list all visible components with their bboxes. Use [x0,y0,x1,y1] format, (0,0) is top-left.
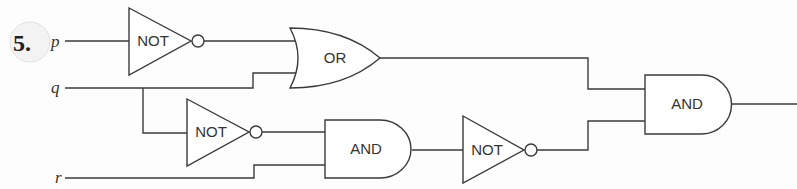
not-gate-3: NOT [463,116,537,183]
or-gate: OR [290,28,380,88]
problem-number-text: 5. [13,30,31,56]
logic-circuit-diagram: 5. p q r NOT OR [0,0,797,189]
inversion-bubble [250,126,262,138]
gate-label: OR [324,49,347,66]
not-gate-1: NOT [129,8,204,75]
and-gate-1: AND [325,120,411,178]
gate-label: AND [671,95,703,112]
wire-or-and2 [380,58,645,89]
gate-label: NOT [471,141,503,158]
gate-label: NOT [137,32,169,49]
wire-q-or [65,73,298,88]
input-label-r: r [55,168,62,187]
wire-not3-and2 [537,121,645,150]
problem-number: 5. [10,22,50,62]
gate-label: AND [350,140,382,157]
inversion-bubble [192,35,204,47]
input-label-p: p [50,32,60,51]
wire-q-not2 [143,88,187,133]
wire-r-and1 [65,165,325,178]
gate-label: NOT [195,123,227,140]
input-label-q: q [51,78,60,97]
circuit-canvas: 5. p q r NOT OR [0,0,797,189]
inversion-bubble [525,144,537,156]
and-gate-2: AND [645,75,731,134]
not-gate-2: NOT [187,99,262,166]
